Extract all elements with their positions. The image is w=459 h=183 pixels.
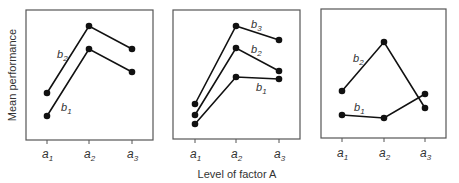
series-label-b1: b1 [354,101,365,116]
data-point [339,112,346,119]
data-point [233,45,240,52]
y-axis-label: Mean performance [6,29,18,121]
tick-label-a2: a2 [231,147,243,163]
panel-1-frame [26,10,153,140]
data-point [276,68,283,75]
data-point [192,101,199,108]
data-point [276,37,283,44]
data-point [422,105,429,112]
tick-label-a1: a1 [190,147,201,163]
interaction-plots-figure: Mean performance b2 b1 a1 a2 a3 [0,0,459,183]
data-point [339,88,346,95]
panel-1: b2 b1 a1 a2 a3 [26,10,153,163]
series-label-b2: b2 [251,43,262,58]
data-point [44,113,51,120]
data-point [381,115,388,122]
panel-2: b3 b2 b1 a1 a2 a3 Level of factor A [173,10,300,180]
tick-label-a3: a3 [420,146,432,162]
data-point [44,90,51,97]
data-point [86,23,93,30]
tick-label-a2: a2 [84,147,96,163]
data-point [276,76,283,83]
series-label-b2: b2 [57,48,68,63]
tick-label-a3: a3 [127,147,139,163]
data-point [129,69,136,76]
data-point [422,91,429,98]
series-label-b1: b1 [256,81,267,96]
series-b1-line [195,77,279,124]
data-point [192,112,199,119]
data-point [233,74,240,81]
data-point [192,121,199,128]
data-point [381,39,388,46]
data-point [233,23,240,30]
panel-3: b2 b1 a1 a2 a3 [321,9,446,162]
tick-label-a1: a1 [337,146,348,162]
x-axis-label: Level of factor A [198,168,278,180]
tick-label-a1: a1 [42,147,53,163]
data-point [129,46,136,53]
series-label-b2: b2 [353,52,364,67]
series-label-b1: b1 [61,101,72,116]
tick-label-a3: a3 [274,147,286,163]
data-point [86,46,93,53]
tick-label-a2: a2 [379,146,391,162]
